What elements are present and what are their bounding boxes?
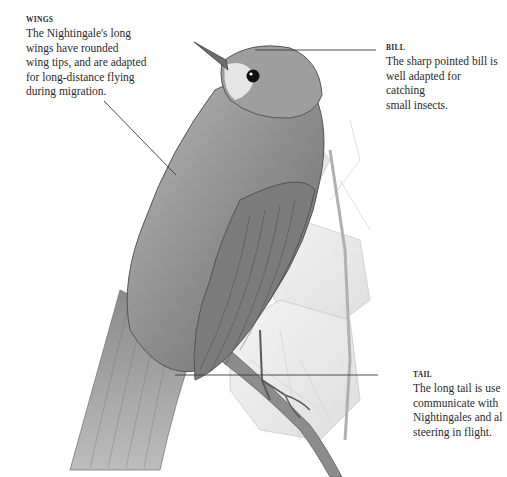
eye [247,70,260,83]
tail-description-line: steering in flight. [413,425,507,440]
wings-annotation: WINGS The Nightingale's long wings have … [26,15,156,99]
bill-description-line: small insects. [386,98,501,113]
tail-description-line: Nightingales and al [413,410,507,425]
tail-annotation: TAIL The long tail is use communicate wi… [413,370,507,439]
wings-description-line: wing tips, and are adapted [26,55,156,70]
bill-annotation: BILL The sharp pointed bill is well adap… [386,43,501,112]
bill-heading: BILL [386,43,501,52]
wings-description-line: The Nightingale's long [26,26,156,41]
wings-description-line: during migration. [26,84,156,99]
bill-description-line: well adapted for catching [386,69,501,98]
bill [194,42,228,70]
wings-description-line: for long-distance flying [26,70,156,85]
wings-description-line: wings have rounded [26,41,156,56]
bill-description-line: The sharp pointed bill is [386,54,501,69]
wings-heading: WINGS [26,15,156,24]
tail-description-line: The long tail is use [413,381,507,396]
tail-description-line: communicate with [413,396,507,411]
wings-leader-line [104,101,176,175]
tail-heading: TAIL [413,370,507,379]
